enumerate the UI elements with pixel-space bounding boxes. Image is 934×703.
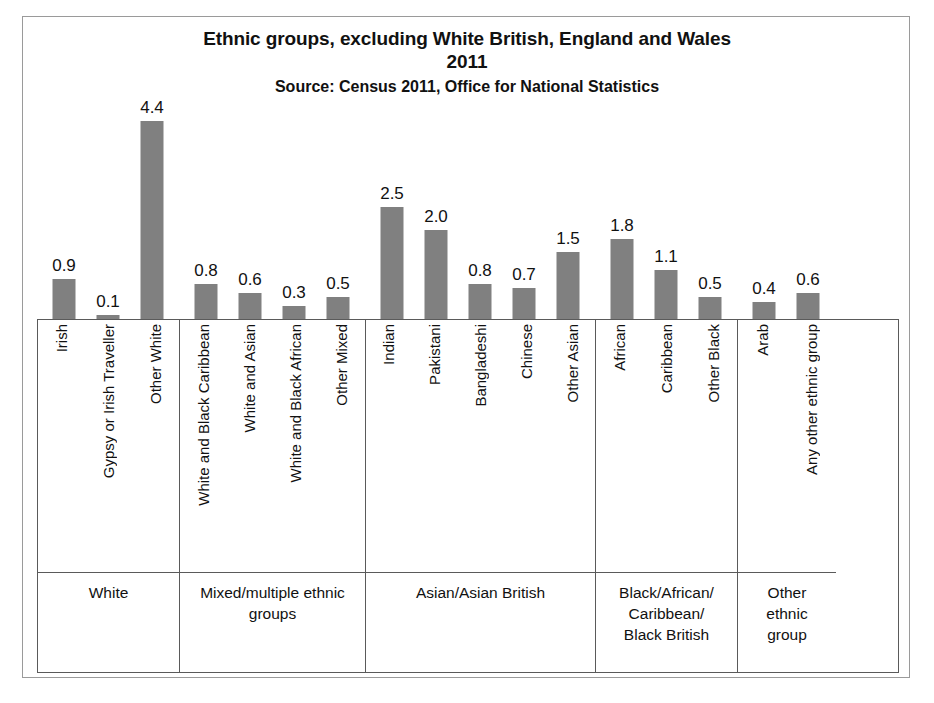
bar[interactable] <box>327 297 350 320</box>
bar[interactable] <box>797 293 820 320</box>
category-label-cell: Bangladeshi <box>458 324 502 572</box>
bar[interactable] <box>141 121 164 320</box>
category-label: Gypsy or Irish Traveller <box>101 324 116 478</box>
bar[interactable] <box>753 302 776 320</box>
axis-group-column: ArabAny other ethnic groupOther ethnic g… <box>738 320 836 672</box>
bar-slot: 2.5 <box>370 121 414 320</box>
bar-value-label: 1.5 <box>556 229 580 248</box>
bar-value-label: 0.6 <box>796 270 820 289</box>
axis-group-column: IndianPakistaniBangladeshiChineseOther A… <box>366 320 596 672</box>
category-label: Indian <box>381 324 396 365</box>
category-label: Arab <box>755 324 770 356</box>
category-label: Other Mixed <box>334 324 349 406</box>
bar[interactable] <box>53 279 76 320</box>
category-label: Other White <box>148 324 163 404</box>
bar-slot: 0.4 <box>742 121 786 320</box>
group-label-row: Asian/Asian British <box>366 572 595 672</box>
category-label: White and Black African <box>288 324 303 482</box>
bar-slot: 0.7 <box>502 121 546 320</box>
bar-value-label: 0.6 <box>238 270 262 289</box>
category-label-cell: White and Black African <box>274 324 318 572</box>
group-label-row: Mixed/multiple ethnic groups <box>180 572 365 672</box>
bar[interactable] <box>195 284 218 320</box>
category-label: Other Black <box>706 324 721 402</box>
plot-area: 0.90.14.40.80.60.30.52.52.00.80.71.51.81… <box>37 121 899 320</box>
category-label-cell: African <box>598 324 642 572</box>
bar-slot: 0.9 <box>42 121 86 320</box>
category-label: White and Asian <box>242 324 257 432</box>
bar[interactable] <box>699 297 722 320</box>
bar-value-label: 0.9 <box>52 256 76 275</box>
page-title: Ethnic groups, excluding White British, … <box>31 27 903 73</box>
category-label-cell: Pakistani <box>413 324 457 572</box>
bar[interactable] <box>469 284 492 320</box>
category-label-cell: White and Asian <box>227 324 271 572</box>
axis-group-column: White and Black CaribbeanWhite and Asian… <box>180 320 366 672</box>
group-label: White <box>89 582 129 603</box>
bar[interactable] <box>239 293 262 320</box>
bar-value-label: 0.3 <box>282 283 306 302</box>
category-label-cell: Gypsy or Irish Traveller <box>87 324 131 572</box>
bar-slot: 1.8 <box>600 121 644 320</box>
bar[interactable] <box>425 230 448 320</box>
group-label: Black/African/ Caribbean/ Black British <box>619 582 714 645</box>
bar-value-label: 2.5 <box>380 184 404 203</box>
bar-value-label: 1.1 <box>654 247 678 266</box>
category-label-cell: Chinese <box>504 324 548 572</box>
bar-slot: 0.1 <box>86 121 130 320</box>
bar-slot: 0.3 <box>272 121 316 320</box>
category-label: Pakistani <box>427 324 442 385</box>
category-label: Irish <box>54 324 69 352</box>
group-label-row: Other ethnic group <box>738 572 836 672</box>
category-axis-table: IrishGypsy or Irish TravellerOther White… <box>37 319 899 673</box>
category-label-cell: Indian <box>367 324 411 572</box>
category-label-cell: Arab <box>741 324 785 572</box>
category-label: Bangladeshi <box>473 324 488 407</box>
bar-slot: 1.5 <box>546 121 590 320</box>
category-label-row: ArabAny other ethnic group <box>738 320 836 572</box>
group-label: Asian/Asian British <box>416 582 545 603</box>
category-label: Chinese <box>519 324 534 379</box>
bar[interactable] <box>655 270 678 320</box>
bar-slot: 1.1 <box>644 121 688 320</box>
category-label: White and Black Caribbean <box>196 324 211 506</box>
category-label-row: IrishGypsy or Irish TravellerOther White <box>38 320 179 572</box>
group-label-row: White <box>38 572 179 672</box>
bar-value-label: 0.5 <box>698 274 722 293</box>
chart-frame: Ethnic groups, excluding White British, … <box>22 16 910 678</box>
category-label-cell: Other White <box>134 324 178 572</box>
bar-slot: 0.8 <box>184 121 228 320</box>
bar-slot: 0.8 <box>458 121 502 320</box>
axis-group-column: IrishGypsy or Irish TravellerOther White… <box>38 320 180 672</box>
bar-value-label: 2.0 <box>424 207 448 226</box>
category-label-cell: Any other ethnic group <box>790 324 834 572</box>
bar-value-label: 1.8 <box>610 216 634 235</box>
category-label: African <box>612 324 627 371</box>
group-label-row: Black/African/ Caribbean/ Black British <box>596 572 737 672</box>
category-label-cell: Other Mixed <box>320 324 364 572</box>
title-block: Ethnic groups, excluding White British, … <box>31 27 903 97</box>
category-label-cell: Other Asian <box>550 324 594 572</box>
bar[interactable] <box>557 252 580 320</box>
bar-slot: 0.6 <box>228 121 272 320</box>
bar-value-label: 0.8 <box>194 261 218 280</box>
bar-slot: 4.4 <box>130 121 174 320</box>
bar[interactable] <box>513 288 536 320</box>
bar-slot: 0.5 <box>316 121 360 320</box>
bar-slot: 2.0 <box>414 121 458 320</box>
bar-value-label: 4.4 <box>140 98 164 117</box>
category-label-row: AfricanCaribbeanOther Black <box>596 320 737 572</box>
category-label-cell: Irish <box>40 324 84 572</box>
category-label-cell: White and Black Caribbean <box>181 324 225 572</box>
bar-value-label: 0.4 <box>752 279 776 298</box>
category-label: Other Asian <box>565 324 580 402</box>
bar[interactable] <box>611 239 634 320</box>
bar[interactable] <box>381 207 404 320</box>
bar-slot: 0.6 <box>786 121 830 320</box>
category-label-cell: Other Black <box>692 324 736 572</box>
bar-value-label: 0.5 <box>326 274 350 293</box>
axis-group-column: AfricanCaribbeanOther BlackBlack/African… <box>596 320 738 672</box>
category-label: Caribbean <box>659 324 674 393</box>
bar[interactable] <box>283 306 306 320</box>
category-label: Any other ethnic group <box>804 324 819 475</box>
